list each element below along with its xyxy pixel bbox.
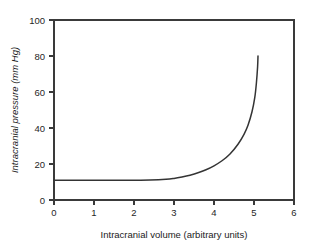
chart-figure: 0 20 40 60 80 100 0 1 2 3 4 5 6	[0, 0, 313, 247]
x-tick-label-1: 1	[91, 207, 96, 218]
y-tick-label-20: 20	[34, 159, 45, 170]
x-tick-label-6: 6	[291, 207, 296, 218]
x-tick-label-3: 3	[171, 207, 176, 218]
y-tick-label-60: 60	[34, 87, 45, 98]
x-tick-label-2: 2	[131, 207, 136, 218]
y-tick-label-100: 100	[29, 15, 45, 26]
y-axis-title: Intracranial pressure (mm Hg)	[9, 47, 20, 173]
y-tick-label-80: 80	[34, 51, 45, 62]
chart-background	[0, 0, 313, 247]
x-tick-label-4: 4	[211, 207, 216, 218]
x-tick-label-5: 5	[251, 207, 256, 218]
pressure-volume-chart: 0 20 40 60 80 100 0 1 2 3 4 5 6	[0, 0, 313, 247]
x-tick-label-0: 0	[51, 207, 56, 218]
y-tick-label-0: 0	[40, 195, 45, 206]
y-tick-label-40: 40	[34, 123, 45, 134]
x-axis-title: Intracranial volume (arbitrary units)	[101, 229, 248, 240]
